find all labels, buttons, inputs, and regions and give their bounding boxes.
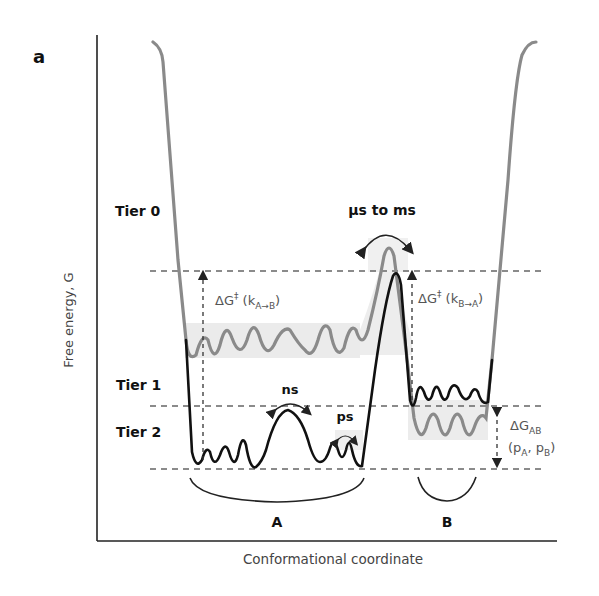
tier0-curve xyxy=(153,42,536,435)
state-b-bracket xyxy=(418,477,476,501)
y-axis-label: Free energy, G xyxy=(61,272,76,367)
timescale-tier2: ps xyxy=(336,409,353,424)
energy-landscape-diagram: a Free energy, G Conformational coordina… xyxy=(0,0,599,596)
barrier-b-to-a-label: ΔG‡ (kB→A) xyxy=(418,289,483,309)
timescale-tier0: μs to ms xyxy=(348,202,416,218)
timescale-tier1: ns xyxy=(282,382,299,397)
x-axis-label: Conformational coordinate xyxy=(243,551,423,567)
barrier-a-to-b-label: ΔG‡ (kA→B) xyxy=(215,291,280,311)
delta-g-ab-label: ΔGAB xyxy=(510,418,541,436)
state-a-bracket xyxy=(190,478,364,502)
tier2-label: Tier 2 xyxy=(116,424,161,440)
tier1-label: Tier 1 xyxy=(116,377,161,393)
panel-label: a xyxy=(33,46,45,67)
state-b-label: B xyxy=(442,514,453,530)
tier0-label: Tier 0 xyxy=(115,203,161,219)
populations-label: (pA, pB) xyxy=(508,440,555,458)
state-a-label: A xyxy=(272,514,283,530)
